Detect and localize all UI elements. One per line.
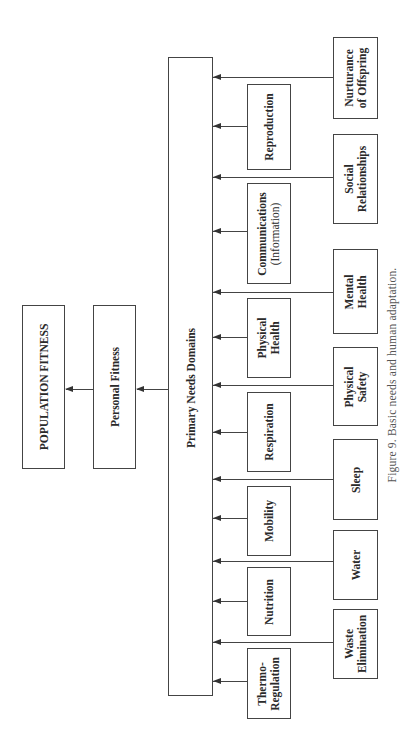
need-box-mobility: Mobility bbox=[247, 486, 291, 556]
arrowhead-icon bbox=[213, 515, 221, 521]
arrowhead-icon bbox=[213, 382, 221, 388]
need-box-nurturance-of-offspring: Nurturanceof Offspring bbox=[333, 37, 378, 119]
arrowhead-icon bbox=[213, 429, 221, 435]
need-label-line2: Elimination bbox=[356, 615, 369, 673]
need-label: Respiration bbox=[263, 403, 276, 461]
primary-needs-domains-label: Primary Needs Domains bbox=[184, 328, 197, 448]
need-box-social-relationships: SocialRelationships bbox=[333, 134, 378, 224]
arrowhead-icon bbox=[213, 639, 221, 645]
need-box-thermo-regulation: Thermo-Regulation bbox=[247, 648, 291, 719]
connector-sleep bbox=[213, 479, 333, 480]
connector-mental-health bbox=[213, 292, 333, 293]
need-box-mental-health: MentalHealth bbox=[333, 249, 378, 334]
arrowhead-icon bbox=[213, 174, 221, 180]
need-label: Physical bbox=[343, 366, 356, 407]
need-box-water: Water bbox=[333, 530, 378, 600]
population-fitness-box: POPULATION FITNESS bbox=[22, 305, 65, 469]
need-label: Nutrition bbox=[263, 579, 276, 625]
figure-caption: Figure 9. Basic needs and human adaptati… bbox=[386, 268, 398, 483]
need-label: Nurturance bbox=[343, 48, 356, 108]
need-box-physical-health: PhysicalHealth bbox=[247, 298, 291, 378]
need-label: Water bbox=[349, 550, 362, 581]
population-fitness-label: POPULATION FITNESS bbox=[37, 324, 50, 451]
need-label-line2: Relationships bbox=[356, 146, 369, 212]
need-box-nutrition: Nutrition bbox=[247, 567, 291, 636]
need-label: Social bbox=[343, 146, 356, 212]
need-box-waste-elimination: WasteElimination bbox=[333, 609, 378, 679]
arrowhead-icon bbox=[213, 476, 221, 482]
need-label: Physical bbox=[256, 318, 269, 359]
arrowhead-icon bbox=[213, 289, 221, 295]
need-label: Waste bbox=[343, 615, 356, 673]
personal-fitness-label: Personal Fitness bbox=[108, 347, 121, 427]
connector-social bbox=[213, 177, 333, 178]
need-label-line2: Health bbox=[269, 318, 282, 359]
need-label: Reproduction bbox=[263, 93, 276, 161]
primary-needs-domains-box: Primary Needs Domains bbox=[168, 57, 213, 696]
personal-fitness-box: Personal Fitness bbox=[93, 305, 136, 469]
arrowhead-icon bbox=[213, 334, 221, 340]
connector-waste-elimination bbox=[213, 642, 333, 643]
arrowhead-icon bbox=[213, 598, 221, 604]
need-label-line2: (Information) bbox=[269, 192, 282, 276]
need-label: Communications bbox=[256, 192, 269, 276]
arrowhead-icon bbox=[213, 123, 221, 129]
arrowhead-icon bbox=[213, 678, 221, 684]
need-label-line2: Safety bbox=[356, 366, 369, 407]
need-label: Sleep bbox=[349, 466, 362, 492]
connector-nurturance bbox=[213, 77, 333, 78]
need-label: Mobility bbox=[263, 500, 276, 542]
need-label-line2: of Offspring bbox=[356, 48, 369, 108]
connector-water bbox=[213, 561, 333, 562]
arrowhead-icon bbox=[65, 386, 73, 392]
need-box-communications: Communications(Information) bbox=[247, 183, 291, 284]
need-label-line2: Health bbox=[356, 274, 369, 309]
need-label-line2: Regulation bbox=[269, 657, 282, 711]
need-box-physical-safety: PhysicalSafety bbox=[333, 347, 378, 426]
need-box-respiration: Respiration bbox=[247, 392, 291, 472]
connector-physical-safety bbox=[213, 385, 333, 386]
arrowhead-icon bbox=[136, 386, 144, 392]
need-box-reproduction: Reproduction bbox=[247, 84, 291, 170]
arrowhead-icon bbox=[213, 228, 221, 234]
need-label: Thermo- bbox=[256, 657, 269, 711]
arrowhead-icon bbox=[213, 558, 221, 564]
need-box-sleep: Sleep bbox=[333, 439, 378, 520]
need-label: Mental bbox=[343, 274, 356, 309]
arrowhead-icon bbox=[213, 74, 221, 80]
